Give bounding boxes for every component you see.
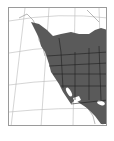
range-map	[9, 8, 107, 126]
map-frame	[8, 7, 107, 126]
